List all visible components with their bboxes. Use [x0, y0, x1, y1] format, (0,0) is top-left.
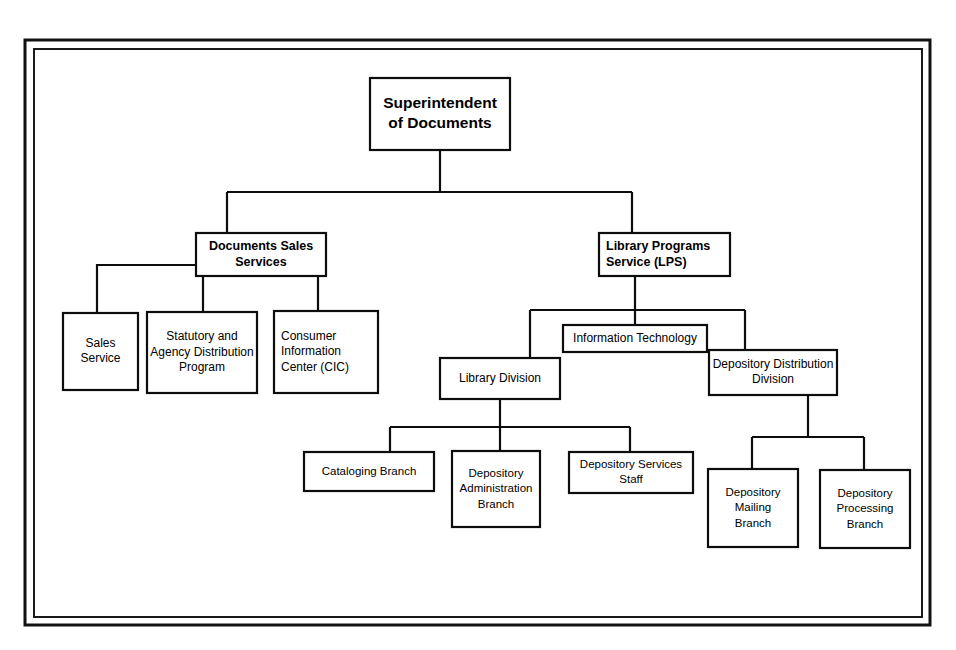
- org-node-information-technology: Information Technology: [563, 325, 707, 352]
- sales-service-label-line-1: Sales: [85, 336, 115, 350]
- depository-processing-branch-label-line-2: Processing: [837, 502, 894, 514]
- org-chart-nodes: Superintendentof DocumentsDocuments Sale…: [63, 78, 910, 548]
- depository-services-staff-label-line-1: Depository Services: [580, 458, 683, 470]
- depository-processing-branch-label-line-3: Branch: [847, 518, 883, 530]
- org-node-depository-processing-branch: DepositoryProcessingBranch: [820, 470, 910, 548]
- org-node-consumer-information-center: ConsumerInformationCenter (CIC): [274, 311, 378, 393]
- library-programs-service-label-line-1: Library Programs: [606, 239, 710, 253]
- information-technology-label-line-1: Information Technology: [573, 331, 697, 345]
- depository-administration-branch-label-line-2: Administration: [460, 482, 533, 494]
- depository-distribution-division-label-line-1: Depository Distribution: [713, 357, 834, 371]
- org-node-depository-distribution-division: Depository DistributionDivision: [709, 350, 837, 395]
- connector-lines: [97, 150, 864, 470]
- depository-processing-branch-label-line-1: Depository: [838, 487, 893, 499]
- statutory-and-agency-distribution-program-label-line-2: Agency Distribution: [150, 345, 253, 359]
- org-chart-canvas: Superintendentof DocumentsDocuments Sale…: [0, 0, 956, 650]
- org-node-cataloging-branch: Cataloging Branch: [304, 452, 434, 491]
- org-node-depository-administration-branch: DepositoryAdministrationBranch: [452, 451, 540, 527]
- depository-mailing-branch-label-line-2: Mailing: [735, 501, 771, 513]
- depository-administration-branch-label-line-1: Depository: [469, 467, 524, 479]
- depository-services-staff-label-line-2: Staff: [619, 473, 643, 485]
- org-node-library-division: Library Division: [440, 358, 560, 399]
- depository-mailing-branch-label-line-3: Branch: [735, 517, 771, 529]
- depository-distribution-division-label-line-2: Division: [752, 372, 794, 386]
- connector-superintendent-to-level2: [227, 150, 632, 233]
- consumer-information-center-label-line-2: Information: [281, 344, 341, 358]
- organizational-chart-figure: Superintendentof DocumentsDocuments Sale…: [0, 0, 956, 650]
- org-node-library-programs-service: Library ProgramsService (LPS): [599, 233, 730, 276]
- superintendent-of-documents-label-line-2: of Documents: [388, 114, 491, 131]
- org-node-superintendent-of-documents: Superintendentof Documents: [370, 78, 510, 150]
- depository-mailing-branch-label-line-1: Depository: [726, 486, 781, 498]
- statutory-and-agency-distribution-program-label-line-3: Program: [179, 360, 225, 374]
- connector-depository-distribution-to-children: [752, 395, 864, 470]
- depository-administration-branch-label-line-3: Branch: [478, 498, 514, 510]
- cataloging-branch-label-line-1: Cataloging Branch: [322, 465, 417, 477]
- superintendent-of-documents-label-line-1: Superintendent: [383, 94, 497, 111]
- consumer-information-center-label-line-3: Center (CIC): [281, 360, 349, 374]
- connector-library-division-to-children: [390, 399, 630, 452]
- org-node-statutory-and-agency-distribution-program: Statutory andAgency DistributionProgram: [147, 312, 257, 393]
- library-division-label-line-1: Library Division: [459, 371, 541, 385]
- org-node-sales-service: SalesService: [63, 313, 138, 390]
- connector-documents-sales-to-sales-service: [97, 265, 196, 313]
- org-node-documents-sales-services: Documents SalesServices: [196, 233, 326, 276]
- documents-sales-services-label-line-2: Services: [235, 255, 286, 269]
- consumer-information-center-label-line-1: Consumer: [281, 329, 336, 343]
- sales-service-label-line-2: Service: [80, 351, 120, 365]
- statutory-and-agency-distribution-program-label-line-1: Statutory and: [166, 329, 237, 343]
- org-node-depository-mailing-branch: DepositoryMailingBranch: [708, 469, 798, 547]
- documents-sales-services-label-line-1: Documents Sales: [209, 239, 313, 253]
- library-programs-service-label-line-2: Service (LPS): [606, 255, 687, 269]
- org-node-depository-services-staff: Depository ServicesStaff: [569, 452, 693, 493]
